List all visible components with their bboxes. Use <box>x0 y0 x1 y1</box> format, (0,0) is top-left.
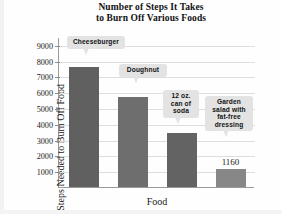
y-axis-tick-label: 3000 <box>37 136 53 145</box>
y-axis-tick-label: 8000 <box>37 57 53 66</box>
plot-area: Steps Needed to Burn Off Food Food 90008… <box>58 38 254 188</box>
callout-text-line: can of <box>167 100 195 108</box>
scan-edge-bottom <box>0 210 282 214</box>
callout-text-line: salad with <box>209 106 249 114</box>
bar-4: 1160 <box>216 169 246 187</box>
chart-title-line-2: to Burn Off Various Foods <box>56 13 246 24</box>
callout-label-3: 12 oz.can ofsoda <box>163 90 199 118</box>
y-axis-tick <box>55 172 60 173</box>
callout-text-line: Cheeseburger <box>71 38 121 46</box>
callout-text-line: soda <box>167 107 195 115</box>
bar-value-label: 1160 <box>222 157 240 167</box>
callout-text-line: fat-free <box>209 113 249 121</box>
callout-text-line: Doughnut <box>123 66 163 74</box>
chart-title-line-1: Number of Steps It Takes <box>98 2 203 12</box>
bar-1 <box>69 67 99 187</box>
bar-chart-figure: Number of Steps It Takes to Burn Off Var… <box>0 0 282 214</box>
callout-tail <box>175 117 181 124</box>
y-axis-tick-label: 1000 <box>37 168 53 177</box>
y-axis-tick-label: 2000 <box>37 152 53 161</box>
y-axis-tick <box>55 141 60 142</box>
bar-2 <box>118 97 148 187</box>
callout-label-1: Cheeseburger <box>67 36 125 49</box>
y-axis-tick <box>55 156 60 157</box>
callout-text-line: Garden <box>209 98 249 106</box>
y-axis-tick <box>55 46 60 47</box>
y-axis-tick-label: 5000 <box>37 105 53 114</box>
callout-tail <box>83 48 89 55</box>
y-axis-tick <box>55 93 60 94</box>
y-axis-tick-label: 7000 <box>37 73 53 82</box>
callout-tail <box>223 130 229 137</box>
callout-label-2: Doughnut <box>119 64 167 77</box>
y-axis-title: Steps Needed to Burn Off Food <box>55 84 66 211</box>
callout-text-line: 12 oz. <box>167 92 195 100</box>
chart-title: Number of Steps It Takes to Burn Off Var… <box>56 2 246 23</box>
gridline <box>59 62 255 63</box>
callout-text-line: dressing <box>209 121 249 129</box>
y-axis-tick <box>55 125 60 126</box>
scan-edge-left <box>0 0 4 214</box>
y-axis-tick-label: 9000 <box>37 41 53 50</box>
callout-tail <box>133 76 139 83</box>
bar-3 <box>167 133 197 187</box>
y-axis-tick <box>55 62 60 63</box>
y-axis-tick <box>55 109 60 110</box>
callout-label-4: Gardensalad withfat-freedressing <box>205 96 253 131</box>
x-axis-title: Food <box>59 196 255 207</box>
y-axis-tick-label: 6000 <box>37 89 53 98</box>
y-axis-tick-label: 4000 <box>37 120 53 129</box>
y-axis-tick <box>55 77 60 78</box>
